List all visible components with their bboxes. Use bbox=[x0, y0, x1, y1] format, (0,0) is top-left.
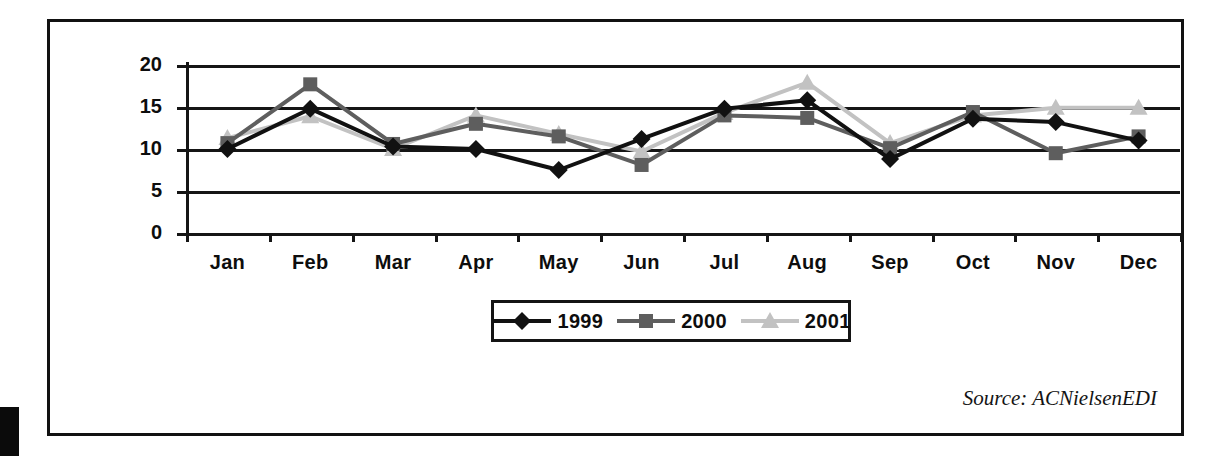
series-2001 bbox=[218, 74, 1147, 159]
legend-entry-2001: 2001 bbox=[739, 310, 851, 333]
y-axis-label: 20 bbox=[102, 54, 162, 74]
data-point-marker bbox=[633, 130, 651, 148]
chart-legend: 199920002001 bbox=[491, 300, 851, 342]
legend-entry-1999: 1999 bbox=[491, 310, 603, 333]
series-layer bbox=[166, 39, 1200, 259]
legend-label: 2001 bbox=[805, 310, 851, 333]
data-point-marker bbox=[800, 111, 814, 125]
data-point-marker bbox=[469, 117, 483, 131]
scan-edge-artifact bbox=[0, 407, 19, 456]
y-axis-label: 10 bbox=[102, 138, 162, 158]
data-point-marker bbox=[798, 74, 816, 90]
triangle-marker bbox=[739, 311, 801, 331]
y-axis-label: 15 bbox=[102, 96, 162, 116]
legend-entry-2000: 2000 bbox=[615, 310, 727, 333]
legend-label: 2000 bbox=[681, 310, 727, 333]
data-point-marker bbox=[635, 158, 649, 172]
data-point-marker bbox=[550, 161, 568, 179]
figure-frame: 05101520 JanFebMarAprMayJunJulAugSepOctN… bbox=[47, 19, 1184, 436]
data-point-marker bbox=[552, 129, 566, 143]
page-canvas: 05101520 JanFebMarAprMayJunJulAugSepOctN… bbox=[0, 0, 1214, 456]
data-point-marker bbox=[1047, 113, 1065, 131]
data-point-marker bbox=[303, 77, 317, 91]
chart-plot-area: 05101520 JanFebMarAprMayJunJulAugSepOctN… bbox=[186, 65, 1180, 233]
square-marker bbox=[615, 311, 677, 331]
data-point-marker bbox=[301, 100, 319, 118]
data-point-marker bbox=[1049, 146, 1063, 160]
y-axis-label: 0 bbox=[102, 222, 162, 242]
legend-label: 1999 bbox=[557, 310, 603, 333]
diamond-marker bbox=[491, 311, 553, 331]
series-line bbox=[227, 100, 1138, 170]
source-note: Source: ACNielsenEDI bbox=[963, 386, 1157, 411]
y-axis-label: 5 bbox=[102, 180, 162, 200]
data-point-marker bbox=[467, 140, 485, 158]
